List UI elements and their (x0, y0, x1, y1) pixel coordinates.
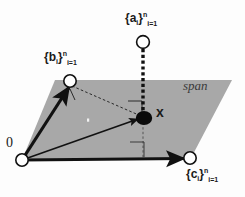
node-a-circle (137, 36, 150, 49)
label-span: span (183, 79, 208, 92)
label-origin: 0 (6, 136, 13, 150)
label-set-a-lower-index: i=1 (147, 20, 157, 27)
label-set-a-superscript: n (143, 11, 147, 18)
label-set-c-lower-index: i=1 (208, 176, 218, 183)
plane-speck (87, 119, 89, 122)
vector-projection-figure: {ai}ni=1 {bi}ni=1 {ci}ni=1 x 0 span (0, 0, 245, 197)
label-set-b-superscript: n (63, 50, 67, 57)
node-origin-circle (16, 154, 28, 166)
label-set-a: {ai}ni=1 (125, 11, 157, 27)
label-set-b-lower-index: i=1 (67, 59, 77, 66)
label-set-b-base: b (49, 50, 56, 64)
node-c-circle (184, 152, 196, 164)
point-x-marker (136, 111, 152, 125)
label-point-x: x (156, 105, 164, 119)
vector-c (22, 159, 184, 161)
label-set-c: {ci}ni=1 (186, 167, 218, 183)
label-set-c-superscript: n (204, 167, 208, 174)
label-set-b: {bi}ni=1 (44, 50, 77, 66)
node-b-circle (64, 75, 76, 87)
